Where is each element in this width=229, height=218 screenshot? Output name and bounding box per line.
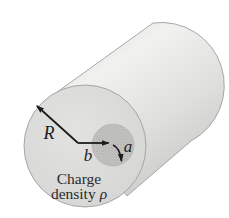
label-b: b <box>84 146 93 165</box>
cylinder-diagram: R b a Charge densityρ <box>0 0 229 218</box>
caption-line2: densityρ <box>51 185 107 202</box>
label-R: R <box>43 123 55 143</box>
label-a: a <box>124 137 133 156</box>
caption-rho-symbol: ρ <box>99 185 107 202</box>
physics-figure: R b a Charge densityρ <box>0 0 229 218</box>
caption-density-word: density <box>51 185 96 202</box>
